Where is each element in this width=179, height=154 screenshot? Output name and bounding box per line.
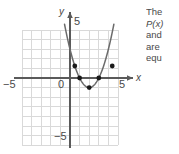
data-point xyxy=(72,64,77,69)
problem-text-line-3: and xyxy=(146,29,179,41)
parabola-graph-figure: −5 0 5 5 −5 y x The P(x) and are equ xyxy=(0,0,179,154)
data-point xyxy=(77,76,82,81)
x-tick-label-pos5: 5 xyxy=(119,78,125,90)
data-point xyxy=(87,85,92,90)
data-point xyxy=(96,76,101,81)
problem-text-line-1: The xyxy=(146,6,179,18)
problem-text-line-4: are xyxy=(146,41,179,53)
x-axis-label: x xyxy=(135,72,142,83)
x-tick-label-zero: 0 xyxy=(58,78,64,90)
y-axis-label: y xyxy=(58,6,65,17)
x-axis-arrow xyxy=(127,75,133,81)
problem-text-line-2: P(x) xyxy=(146,18,179,30)
problem-text-line-5: equ xyxy=(146,52,179,64)
y-tick-label-neg5: −5 xyxy=(54,130,67,142)
problem-text: The P(x) and are equ xyxy=(146,6,179,72)
y-tick-label-pos5: 5 xyxy=(74,15,80,27)
y-axis xyxy=(67,12,73,148)
data-point xyxy=(110,64,115,69)
x-tick-label-neg5: −5 xyxy=(3,78,16,90)
y-axis-arrow xyxy=(67,12,73,18)
